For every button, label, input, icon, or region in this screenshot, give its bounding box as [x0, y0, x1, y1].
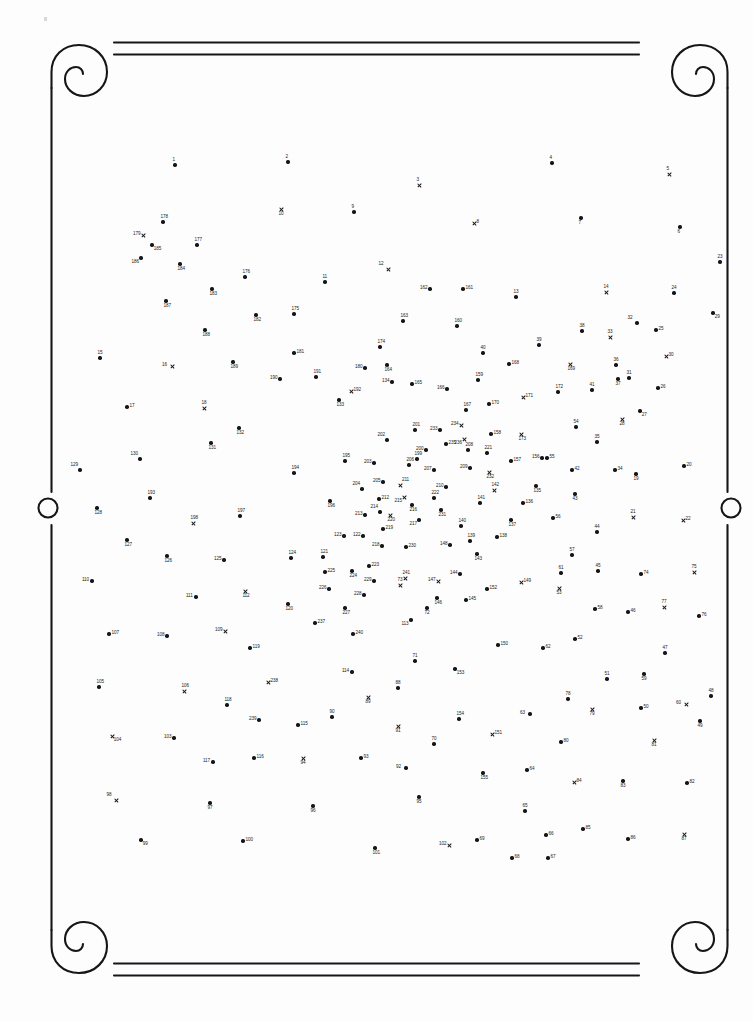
dot-marker-icon: [550, 161, 553, 164]
x-marker-icon: [684, 702, 689, 707]
dot-number-label: 78: [566, 692, 571, 697]
dot-number-label: 230: [409, 544, 416, 549]
dot-marker-icon: [566, 697, 569, 700]
dot-marker-icon: [330, 715, 333, 718]
dot-number-label: 68: [515, 855, 520, 860]
dot-number-label: 66: [549, 832, 554, 837]
dot-number-label: 115: [301, 722, 308, 727]
dot-marker-icon: [709, 694, 712, 697]
dot-marker-icon: [496, 643, 499, 646]
dot-number-label: 107: [112, 631, 119, 636]
dot-marker-icon: [78, 468, 81, 471]
dot-marker-icon: [407, 463, 410, 466]
dot-marker-icon: [352, 210, 355, 213]
dot-number-label: 19: [634, 477, 639, 482]
x-marker-icon: [398, 483, 403, 488]
dot-number-label: 22: [686, 517, 691, 522]
dot-number-label: 86: [631, 836, 636, 841]
dot-number-label: 207: [424, 467, 431, 472]
dot-number-label: 50: [644, 705, 649, 710]
dot-marker-icon: [545, 456, 548, 459]
dot-marker-icon: [656, 386, 659, 389]
x-marker-icon: [403, 576, 408, 581]
dot-number-label: 145: [469, 597, 476, 602]
dot-number-label: 239: [249, 717, 256, 722]
dot-marker-icon: [682, 464, 685, 467]
dot-marker-icon: [593, 607, 596, 610]
dot-marker-icon: [410, 382, 413, 385]
dot-number-label: 200: [416, 447, 423, 452]
dot-marker-icon: [381, 527, 384, 530]
dot-marker-icon: [590, 388, 593, 391]
dot-number-label: 202: [378, 433, 385, 438]
dot-number-label: 191: [314, 370, 321, 375]
dot-number-label: 54: [574, 420, 579, 425]
dot-number-label: 218: [372, 543, 379, 548]
puzzle-page: 1234567891011121314151617181920212223242…: [0, 0, 753, 1021]
dot-marker-icon: [292, 351, 295, 354]
dot-number-label: 214: [371, 505, 378, 510]
dot-number-label: 194: [292, 466, 299, 471]
dot-marker-icon: [464, 408, 467, 411]
dot-number-label: 88: [396, 681, 401, 686]
dot-number-label: 241: [403, 571, 410, 576]
dot-number-label: 93: [364, 755, 369, 760]
dot-number-label: 1: [173, 158, 175, 163]
dot-marker-icon: [697, 614, 700, 617]
dot-number-label: 77: [662, 600, 667, 605]
dot-number-label: 72: [425, 611, 430, 616]
dot-number-label: 212: [382, 496, 389, 501]
dot-number-label: 17: [130, 404, 135, 409]
dot-marker-icon: [514, 295, 517, 298]
dot-number-label: 31: [627, 371, 632, 376]
dot-number-label: 79: [590, 712, 595, 717]
dot-number-label: 208: [466, 443, 473, 448]
dot-number-label: 32: [628, 316, 633, 321]
dot-number-label: 62: [546, 645, 551, 650]
dot-number-label: 142: [492, 483, 499, 488]
dot-number-label: 92: [396, 765, 401, 770]
dot-number-label: 173: [519, 437, 526, 442]
dot-marker-icon: [381, 480, 384, 483]
dot-number-label: 238: [271, 679, 278, 684]
dot-marker-icon: [580, 329, 583, 332]
dot-number-label: 127: [125, 543, 132, 548]
dot-marker-icon: [573, 637, 576, 640]
dot-number-label: 240: [356, 631, 363, 636]
dot-marker-icon: [409, 618, 412, 621]
dot-marker-icon: [485, 587, 488, 590]
dot-number-label: 148: [440, 542, 447, 547]
dot-field: 1234567891011121314151617181920212223242…: [0, 0, 753, 1021]
dot-number-label: 91: [396, 729, 401, 734]
dot-number-label: 161: [466, 286, 473, 291]
dot-number-label: 48: [709, 689, 714, 694]
dot-marker-icon: [464, 598, 467, 601]
dot-marker-icon: [468, 539, 471, 542]
dot-marker-icon: [378, 510, 381, 513]
dot-marker-icon: [444, 485, 447, 488]
dot-number-label: 69: [480, 837, 485, 842]
dot-marker-icon: [466, 448, 469, 451]
dot-marker-icon: [444, 442, 447, 445]
dot-number-label: 24: [672, 286, 677, 291]
dot-number-label: 100: [246, 838, 253, 843]
x-marker-icon: [459, 423, 464, 428]
dot-number-label: 57: [570, 548, 575, 553]
dot-number-label: 184: [178, 267, 185, 272]
dot-marker-icon: [161, 220, 164, 223]
dot-number-label: 3: [417, 178, 419, 183]
dot-marker-icon: [225, 703, 228, 706]
dot-number-label: 8: [477, 220, 479, 225]
dot-number-label: 42: [575, 467, 580, 472]
dot-number-label: 112: [243, 594, 250, 599]
dot-marker-icon: [194, 595, 197, 598]
dot-number-label: 123: [334, 533, 341, 538]
dot-number-label: 231: [439, 513, 446, 518]
dot-marker-icon: [417, 518, 420, 521]
dot-number-label: 211: [402, 478, 409, 483]
dot-marker-icon: [404, 545, 407, 548]
dot-marker-icon: [581, 827, 584, 830]
dot-number-label: 51: [605, 672, 610, 677]
dot-marker-icon: [559, 571, 562, 574]
dot-marker-icon: [363, 366, 366, 369]
